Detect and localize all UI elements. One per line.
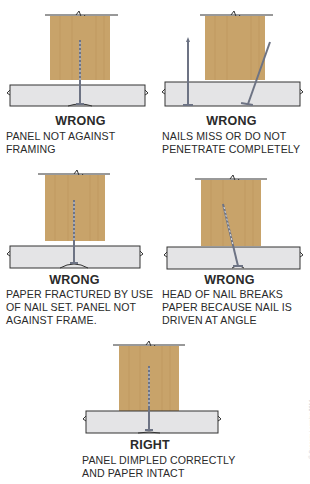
verdict-label: WRONG (42, 273, 107, 287)
verdict-label: RIGHT (115, 438, 185, 452)
framing-stud (205, 16, 265, 80)
nailing-diagram-5 (60, 320, 290, 435)
verdict-label: WRONG (199, 114, 264, 128)
nailing-diagram-2 (155, 0, 310, 120)
verdict-label: WRONG (197, 273, 262, 287)
nailing-diagram-1 (0, 0, 155, 120)
figure-correct-nailing: RIGHT PANEL DIMPLED CORRECTLY AND PAPER … (60, 320, 290, 484)
drywall-panel (10, 85, 145, 106)
copyright-notice: © Cengage Learning 2014 (308, 400, 310, 459)
figure-caption: PANEL NOT AGAINST FRAMING (6, 130, 115, 156)
figure-caption: NAILS MISS OR DO NOT PENETRATE COMPLETEL… (162, 130, 300, 156)
drywall-panel (165, 82, 300, 106)
figure-paper-fractured: WRONG PAPER FRACTURED BY USE OF NAIL SET… (0, 160, 155, 320)
figure-nail-at-angle: WRONG HEAD OF NAIL BREAKS PAPER BECAUSE … (155, 160, 310, 320)
figure-caption: PANEL DIMPLED CORRECTLY AND PAPER INTACT (82, 454, 235, 480)
figure-panel-not-against-framing: WRONG PANEL NOT AGAINST FRAMING (0, 0, 155, 160)
figure-nails-miss: WRONG NAILS MISS OR DO NOT PENETRATE COM… (155, 0, 310, 160)
nailing-diagram-4 (155, 160, 310, 280)
nailing-diagram-3 (0, 160, 155, 280)
verdict-label: WRONG (48, 114, 113, 128)
